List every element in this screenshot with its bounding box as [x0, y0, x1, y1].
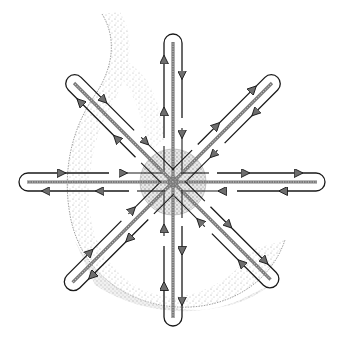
arrow-outward-icon: [80, 102, 83, 105]
arrow-inward-icon: [255, 110, 258, 113]
arrow-outward-icon: [129, 236, 132, 239]
arrow-outward-icon: [250, 89, 253, 92]
spoke-north-east: [167, 71, 284, 188]
spokes: [19, 34, 325, 326]
arrow-inward-icon: [130, 210, 133, 213]
spoke-south-east: [167, 176, 283, 292]
arrow-inward-icon: [143, 139, 146, 142]
arrow-inward-icon: [200, 222, 203, 225]
arrow-inward-icon: [213, 152, 216, 155]
arrow-outward-icon: [226, 222, 229, 225]
arrow-outward-icon: [117, 138, 120, 141]
arrow-outward-icon: [214, 126, 217, 129]
breast-exam-radial-diagram: [0, 0, 342, 346]
